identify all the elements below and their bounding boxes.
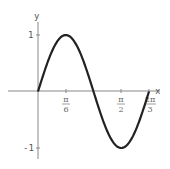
svg-text:6: 6 bbox=[63, 105, 68, 114]
svg-text:π: π bbox=[118, 95, 123, 104]
x-tick-label-pi2: π 2 bbox=[117, 95, 125, 114]
x-tick-label-pi6: π 6 bbox=[62, 95, 70, 114]
y-tick-label-1: 1 bbox=[28, 30, 33, 40]
chart: y x 1 -1 π 6 π 2 2π 3 bbox=[0, 0, 170, 169]
y-axis-label: y bbox=[34, 11, 40, 21]
svg-text:3: 3 bbox=[147, 105, 152, 114]
svg-text:π: π bbox=[63, 95, 68, 104]
svg-text:2: 2 bbox=[118, 105, 123, 114]
x-axis-label: x bbox=[155, 86, 161, 96]
y-tick-label-neg1: -1 bbox=[23, 143, 34, 153]
